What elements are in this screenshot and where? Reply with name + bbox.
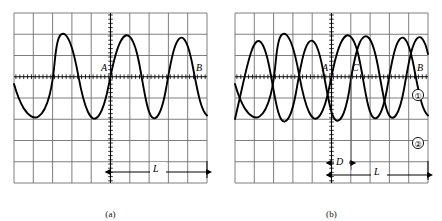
caption-b: (b) — [221, 209, 442, 219]
label-span-l-a: L — [152, 163, 159, 174]
label-point-a: A — [100, 62, 108, 73]
trace-marker-two: ② — [412, 137, 423, 148]
dimension-span-d-b: D — [332, 155, 352, 168]
caption-a: (a) — [0, 209, 221, 219]
label-point-c-b: C — [352, 62, 359, 73]
label-span-d-b: D — [335, 156, 344, 167]
label-point-a-b: A — [321, 62, 329, 73]
label-point-b: B — [196, 62, 202, 73]
dimension-span-l-a: L — [111, 161, 208, 178]
panel-b: A C B ① ② D — [221, 0, 442, 221]
panel-a-plot: A B L — [0, 0, 221, 221]
trace-marker-one: ① — [412, 89, 423, 100]
label-point-b-b: B — [417, 62, 423, 73]
trace-marker-one-label: ① — [414, 92, 421, 101]
waveform-figure: A B L (a) — [0, 0, 442, 221]
panel-a: A B L (a) — [0, 0, 221, 221]
label-span-l-b: L — [373, 166, 380, 177]
panel-b-plot: A C B ① ② D — [221, 0, 442, 221]
trace-marker-two-label: ② — [414, 140, 421, 149]
